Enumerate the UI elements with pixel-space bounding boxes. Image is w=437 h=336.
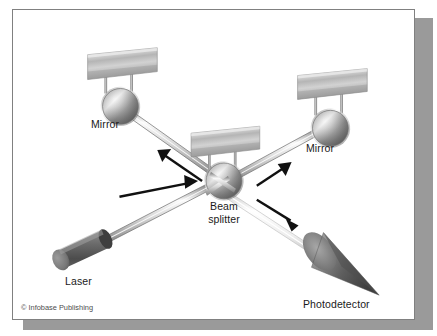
- mirror-left-assembly: [88, 48, 158, 126]
- label-laser: Laser: [65, 275, 92, 287]
- copyright-credit: © Infobase Publishing: [21, 303, 93, 312]
- diagram-stage: Mirror Mirror Beam splitter Laser Photod…: [0, 0, 437, 336]
- label-photodetector: Photodetector: [303, 298, 370, 310]
- laser-source: [49, 227, 115, 273]
- label-mirror-right: Mirror: [306, 142, 334, 154]
- interferometer-illustration: [13, 10, 414, 319]
- label-beam-splitter-line2: splitter: [189, 213, 259, 225]
- figure-frame: Mirror Mirror Beam splitter Laser Photod…: [12, 9, 415, 320]
- photodetector: [296, 226, 379, 295]
- label-mirror-left: Mirror: [91, 118, 119, 130]
- label-beam-splitter-line1: Beam: [189, 200, 259, 212]
- arrow-laser-to-splitter: [119, 175, 198, 197]
